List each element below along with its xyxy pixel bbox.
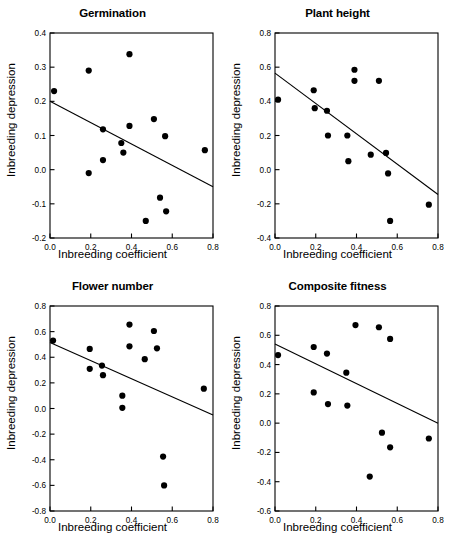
y-tick-label: 0.4 (260, 97, 272, 106)
data-point (119, 393, 125, 399)
data-point (351, 67, 357, 73)
x-tick-label: 0.4 (126, 243, 138, 252)
data-point (376, 324, 382, 330)
plot-area: 0.00.20.40.60.80.40.30.20.10.0-0.1-0.2 (0, 0, 225, 273)
data-point (325, 401, 331, 407)
data-point (368, 152, 374, 158)
data-point (151, 116, 157, 122)
y-tick-label: -0.2 (257, 200, 272, 209)
x-tick-label: 0.4 (126, 516, 138, 525)
plot-area: 0.00.20.40.60.80.80.60.40.20.0-0.2-0.4-0… (225, 273, 450, 546)
data-point (387, 336, 393, 342)
plot-frame (50, 33, 213, 238)
data-point (325, 132, 331, 138)
x-tick-label: 0.6 (392, 516, 404, 525)
data-point (426, 435, 432, 441)
data-point (118, 140, 124, 146)
y-tick-label: 0.8 (260, 29, 272, 38)
y-tick-label: -0.1 (32, 200, 47, 209)
y-tick-label: 0.3 (35, 63, 47, 72)
y-tick-label: 0.0 (260, 166, 272, 175)
x-tick-label: 0.0 (44, 243, 56, 252)
y-tick-label: -0.2 (257, 448, 272, 457)
x-tick-label: 0.2 (310, 243, 322, 252)
data-point (162, 133, 168, 139)
y-tick-label: 0.2 (260, 132, 272, 141)
data-point (120, 149, 126, 155)
regression-line (275, 344, 438, 423)
y-tick-label: 0.4 (260, 361, 272, 370)
x-tick-label: 0.8 (207, 516, 219, 525)
plot-frame (275, 33, 438, 238)
data-point (142, 356, 148, 362)
x-tick-label: 0.6 (167, 516, 179, 525)
x-tick-label: 0.6 (167, 243, 179, 252)
y-tick-label: -0.2 (32, 430, 47, 439)
data-point (343, 370, 349, 376)
x-tick-label: 0.0 (269, 243, 281, 252)
data-point (119, 405, 125, 411)
data-point (99, 362, 105, 368)
data-point (324, 350, 330, 356)
plot-frame (275, 306, 438, 511)
data-point (344, 132, 350, 138)
y-tick-label: 0.2 (35, 379, 47, 388)
regression-line (50, 343, 213, 415)
inbreeding-depression-figure: GerminationInbreeding depressionInbreedi… (0, 0, 450, 546)
data-point (383, 150, 389, 156)
y-tick-label: 0.8 (35, 302, 47, 311)
data-point (126, 321, 132, 327)
y-tick-label: 0.8 (260, 302, 272, 311)
data-point (385, 170, 391, 176)
data-point (51, 88, 57, 94)
data-point (202, 147, 208, 153)
x-tick-label: 0.8 (207, 243, 219, 252)
x-tick-label: 0.8 (432, 243, 444, 252)
chart-panel: Plant heightInbreeding depressionInbreed… (225, 0, 450, 273)
plot-area: 0.00.20.40.60.80.80.60.40.20.0-0.2-0.4 (225, 0, 450, 273)
y-tick-label: 0.0 (35, 166, 47, 175)
x-tick-label: 0.4 (351, 516, 363, 525)
y-tick-label: 0.6 (260, 331, 272, 340)
data-point (275, 352, 281, 358)
chart-panel: Composite fitnessInbreeding depressionIn… (225, 273, 450, 546)
y-tick-label: 0.4 (35, 353, 47, 362)
data-point (100, 372, 106, 378)
y-tick-label: 0.2 (35, 97, 47, 106)
data-point (426, 202, 432, 208)
data-point (344, 402, 350, 408)
data-point (163, 208, 169, 214)
y-tick-label: -0.4 (32, 456, 47, 465)
y-tick-label: 0.1 (35, 132, 47, 141)
y-tick-label: 0.0 (260, 419, 272, 428)
data-point (387, 218, 393, 224)
y-tick-label: 0.4 (35, 29, 47, 38)
y-tick-label: -0.4 (257, 234, 272, 243)
y-tick-label: 0.6 (260, 63, 272, 72)
data-point (379, 430, 385, 436)
y-tick-label: -0.4 (257, 478, 272, 487)
x-tick-label: 0.0 (44, 516, 56, 525)
data-point (311, 344, 317, 350)
y-tick-label: 0.2 (260, 390, 272, 399)
data-point (100, 157, 106, 163)
data-point (126, 123, 132, 129)
x-tick-label: 0.2 (85, 516, 97, 525)
data-point (143, 218, 149, 224)
x-tick-label: 0.4 (351, 243, 363, 252)
y-tick-label: 0.6 (35, 328, 47, 337)
data-point (126, 343, 132, 349)
data-point (312, 105, 318, 111)
chart-panel: Flower numberInbreeding depressionInbree… (0, 273, 225, 546)
plot-frame (50, 306, 213, 511)
y-tick-label: 0.0 (35, 405, 47, 414)
data-point (387, 444, 393, 450)
data-point (151, 328, 157, 334)
data-point (367, 473, 373, 479)
data-point (311, 389, 317, 395)
y-tick-label: -0.2 (32, 234, 47, 243)
data-point (311, 87, 317, 93)
data-point (160, 453, 166, 459)
data-point (86, 170, 92, 176)
data-point (86, 67, 92, 73)
